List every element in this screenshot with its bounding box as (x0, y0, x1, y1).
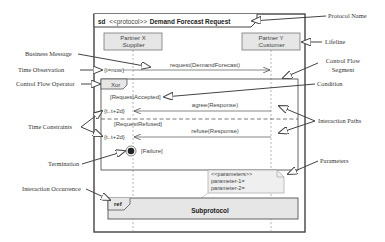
termination-label: [Failure] (141, 148, 163, 154)
svg-text:Time Observation: Time Observation (18, 66, 65, 73)
svg-text:parameter-2=: parameter-2= (211, 185, 245, 191)
svg-text:Control Flow Operator: Control Flow Operator (16, 80, 75, 87)
svg-text:Business Message: Business Message (25, 50, 72, 57)
svg-text:Condition: Condition (317, 80, 343, 87)
svg-text:Partner X: Partner X (120, 35, 145, 41)
time-constraint-2: {t..t+2d} (104, 134, 125, 140)
svg-text:Interaction Paths: Interaction Paths (318, 117, 362, 124)
svg-text:<<parameters>>: <<parameters>> (211, 171, 252, 177)
time-observation: {t=now} (104, 67, 124, 73)
svg-text:Segment: Segment (332, 66, 355, 73)
guard-refused: [RequestRefused] (114, 121, 162, 127)
svg-text::Customer: :Customer (257, 42, 285, 48)
ref-name: Subprotocol (191, 207, 229, 215)
svg-text:Time Constraints: Time Constraints (28, 123, 72, 130)
time-constraint-1: {t..t+2d} (104, 108, 125, 114)
svg-text:Parameters: Parameters (320, 157, 349, 164)
svg-text:request(DemandForecast): request(DemandForecast) (170, 62, 240, 68)
svg-text:Interaction Occurrence: Interaction Occurrence (22, 185, 81, 192)
svg-text:Protocol Name: Protocol Name (328, 12, 367, 19)
svg-text:Partner Y: Partner Y (258, 35, 283, 41)
svg-text:agree(Response): agree(Response) (192, 102, 238, 108)
svg-text:Control Flow: Control Flow (326, 57, 361, 64)
svg-text:Lifeline: Lifeline (325, 38, 345, 45)
termination-icon (126, 146, 136, 156)
ref-label: ref (114, 201, 123, 207)
ref-subprotocol: ref Subprotocol (108, 198, 298, 219)
operator-label: Xor (111, 82, 120, 88)
svg-text:Termination: Termination (48, 160, 80, 167)
guard-accepted: [RequestAccepted] (110, 94, 161, 100)
svg-text:refuse(Response): refuse(Response) (191, 128, 239, 134)
uml-protocol-diagram: sd <<protocol>> Demand Forecast Request … (0, 0, 385, 242)
frame-title: sd <<protocol>> Demand Forecast Request (98, 18, 231, 26)
svg-text:parameter-1=: parameter-1= (211, 178, 245, 184)
svg-text::Supplier: :Supplier (121, 42, 145, 48)
